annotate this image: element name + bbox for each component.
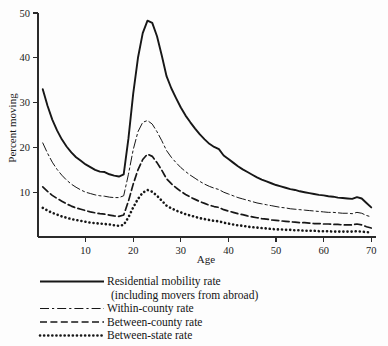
y-axis-title: Percent moving bbox=[6, 93, 18, 163]
x-axis-tick-labels: 10203040506070 bbox=[80, 245, 376, 256]
x-tick-label: 60 bbox=[318, 245, 329, 256]
y-axis-ticks bbox=[33, 13, 38, 192]
series-group bbox=[43, 21, 371, 233]
y-tick-label: 40 bbox=[20, 52, 31, 63]
legend-label-0: Residential mobility rate bbox=[107, 275, 221, 288]
x-axis-title: Age bbox=[197, 253, 215, 265]
axes-group bbox=[33, 13, 376, 242]
legend-label-1: Within-county rate bbox=[107, 302, 194, 315]
y-axis-tick-labels: 1020304050 bbox=[20, 8, 31, 198]
x-tick-label: 10 bbox=[80, 245, 91, 256]
y-tick-label: 30 bbox=[20, 97, 31, 108]
series-line-3 bbox=[43, 190, 371, 233]
series-line-2 bbox=[43, 154, 371, 228]
legend-label-2: Between-county rate bbox=[107, 316, 202, 329]
x-tick-label: 20 bbox=[128, 245, 139, 256]
y-tick-label: 20 bbox=[20, 142, 31, 153]
x-tick-label: 40 bbox=[223, 245, 234, 256]
legend-label-0-line2: (including movers from abroad) bbox=[111, 289, 258, 302]
chart-canvas: 1020304050 10203040506070 Percent moving… bbox=[0, 0, 388, 346]
chart-legend: Residential mobility rate(including move… bbox=[40, 275, 258, 341]
x-tick-label: 50 bbox=[271, 245, 282, 256]
x-axis-ticks bbox=[86, 237, 372, 242]
legend-label-3: Between-state rate bbox=[107, 329, 192, 341]
x-tick-label: 70 bbox=[366, 245, 377, 256]
y-tick-label: 10 bbox=[20, 187, 31, 198]
series-line-0 bbox=[43, 21, 371, 208]
chart-figure: 1020304050 10203040506070 Percent moving… bbox=[0, 0, 388, 346]
y-tick-label: 50 bbox=[20, 8, 31, 19]
x-tick-label: 30 bbox=[176, 245, 187, 256]
